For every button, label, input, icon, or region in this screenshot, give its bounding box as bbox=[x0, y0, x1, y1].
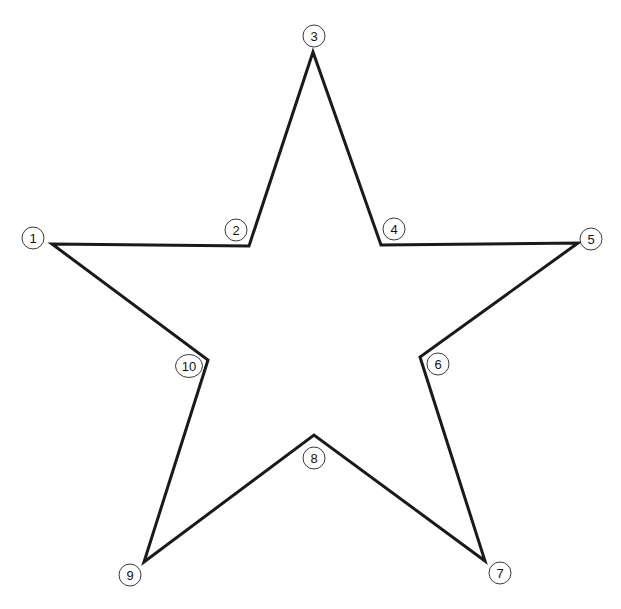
vertex-marker-6: 6 bbox=[427, 353, 449, 375]
vertex-marker-7: 7 bbox=[489, 562, 511, 584]
vertex-marker-4: 4 bbox=[383, 218, 405, 240]
star-diagram-canvas: 12345678910 bbox=[0, 0, 621, 609]
vertex-marker-3: 3 bbox=[303, 25, 325, 47]
vertex-marker-2: 2 bbox=[225, 219, 247, 241]
vertex-label-2: 2 bbox=[232, 223, 239, 238]
vertex-label-1: 1 bbox=[29, 231, 36, 246]
vertex-marker-5: 5 bbox=[580, 228, 602, 250]
star-outline-path bbox=[52, 52, 578, 562]
vertex-marker-group: 12345678910 bbox=[22, 25, 602, 586]
vertex-label-10: 10 bbox=[182, 359, 196, 374]
vertex-label-9: 9 bbox=[126, 568, 133, 583]
vertex-label-4: 4 bbox=[390, 222, 397, 237]
vertex-marker-10: 10 bbox=[176, 355, 203, 378]
vertex-marker-9: 9 bbox=[119, 564, 141, 586]
star-figure: 12345678910 bbox=[0, 0, 621, 609]
vertex-marker-8: 8 bbox=[303, 447, 325, 469]
vertex-label-6: 6 bbox=[434, 357, 441, 372]
vertex-marker-1: 1 bbox=[22, 227, 44, 249]
vertex-label-3: 3 bbox=[310, 29, 317, 44]
vertex-label-5: 5 bbox=[587, 232, 594, 247]
vertex-label-7: 7 bbox=[496, 566, 503, 581]
vertex-label-8: 8 bbox=[310, 451, 317, 466]
